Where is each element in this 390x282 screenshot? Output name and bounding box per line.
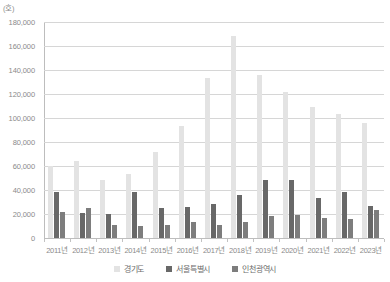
- legend-item[interactable]: 서울특별시: [166, 263, 210, 274]
- bar: [289, 180, 294, 238]
- x-axis-tick-mark: [332, 239, 333, 242]
- y-axis-tick-label: 80,000: [0, 138, 35, 147]
- x-axis-tick-label: 2022년: [334, 244, 356, 255]
- bar-group: [279, 22, 305, 238]
- bar: [48, 166, 53, 238]
- bar: [231, 36, 236, 238]
- bar: [243, 222, 248, 238]
- chart-legend: 경기도서울특별시인천광역시: [0, 263, 390, 274]
- bar-group: [358, 22, 384, 238]
- x-axis-tick-label: 2020년: [281, 244, 303, 255]
- x-axis-tick-labels: 2011년2012년2013년2014년2015년2016년2017년2018년…: [44, 244, 384, 258]
- legend-item[interactable]: 경기도: [114, 263, 144, 274]
- bar: [205, 78, 210, 238]
- bar-group: [253, 22, 279, 238]
- bar: [60, 212, 65, 238]
- legend-item[interactable]: 인천광역시: [232, 263, 276, 274]
- bar: [295, 215, 300, 238]
- bar-group: [96, 22, 122, 238]
- y-axis-tick-label: 40,000: [0, 186, 35, 195]
- x-axis-tick-label: 2017년: [203, 244, 225, 255]
- bar: [362, 123, 367, 238]
- bar: [257, 75, 262, 238]
- x-axis-tick-label: 2014년: [124, 244, 146, 255]
- y-axis-tick-label: 20,000: [0, 210, 35, 219]
- bar-group: [227, 22, 253, 238]
- x-axis-tick-label: 2013년: [98, 244, 120, 255]
- bar: [368, 206, 373, 238]
- x-axis-tick-mark: [44, 239, 45, 242]
- y-axis-tick-label: 180,000: [0, 18, 35, 27]
- bars-layer: [44, 22, 384, 238]
- bar: [159, 208, 164, 238]
- legend-label: 서울특별시: [176, 263, 210, 274]
- plot-area: 180,000160,000140,000120,000100,00080,00…: [44, 22, 384, 238]
- x-axis-tick-label: 2011년: [46, 244, 68, 255]
- x-axis-tick-label: 2012년: [72, 244, 94, 255]
- bar-group: [44, 22, 70, 238]
- y-axis-unit-label: (호): [3, 2, 14, 13]
- bar: [237, 195, 242, 238]
- x-axis-tick-mark: [253, 239, 254, 242]
- y-axis-tick-label: 100,000: [0, 114, 35, 123]
- legend-swatch-icon: [114, 266, 120, 272]
- legend-swatch-icon: [166, 266, 172, 272]
- legend-label: 인천광역시: [242, 263, 276, 274]
- bar-group: [149, 22, 175, 238]
- bar-group: [332, 22, 358, 238]
- x-axis-tick-mark: [70, 239, 71, 242]
- x-axis-tick-marks: [44, 239, 384, 243]
- bar: [132, 192, 137, 238]
- legend-swatch-icon: [232, 266, 238, 272]
- x-axis-tick-label: 2018년: [229, 244, 251, 255]
- y-axis-tick-label: 0: [0, 234, 35, 243]
- x-axis-tick-mark: [358, 239, 359, 242]
- x-axis-tick-mark: [149, 239, 150, 242]
- bar: [100, 180, 105, 238]
- bar: [348, 219, 353, 238]
- y-axis-tick-label: 60,000: [0, 162, 35, 171]
- bar: [283, 92, 288, 238]
- x-axis-tick-mark: [279, 239, 280, 242]
- bar: [138, 226, 143, 238]
- bar: [316, 198, 321, 238]
- x-axis-tick-label: 2021년: [308, 244, 330, 255]
- bar: [310, 107, 315, 238]
- bar-group: [122, 22, 148, 238]
- bar: [269, 216, 274, 238]
- x-axis-tick-mark: [306, 239, 307, 242]
- x-axis-tick-mark: [96, 239, 97, 242]
- x-axis-tick-label: 2023년: [360, 244, 382, 255]
- bar: [185, 207, 190, 238]
- x-axis-tick-label: 2016년: [177, 244, 199, 255]
- bar: [74, 161, 79, 238]
- bar: [165, 225, 170, 238]
- x-axis-tick-mark: [201, 239, 202, 242]
- bar: [374, 210, 379, 238]
- bar-group: [306, 22, 332, 238]
- bar-group: [175, 22, 201, 238]
- x-axis-tick-mark: [122, 239, 123, 242]
- bar: [179, 126, 184, 238]
- x-axis-tick-label: 2015년: [151, 244, 173, 255]
- x-axis-tick-mark: [384, 239, 385, 242]
- bar: [106, 214, 111, 238]
- bar: [322, 218, 327, 238]
- bar: [263, 180, 268, 238]
- bar: [54, 192, 59, 238]
- bar: [86, 208, 91, 238]
- bar-group: [201, 22, 227, 238]
- bar: [217, 225, 222, 238]
- bar: [342, 192, 347, 238]
- y-axis-tick-label: 120,000: [0, 90, 35, 99]
- bar: [191, 222, 196, 238]
- bar-chart: (호) 180,000160,000140,000120,000100,0008…: [0, 0, 390, 282]
- bar: [336, 114, 341, 238]
- y-axis-tick-label: 160,000: [0, 42, 35, 51]
- bar: [126, 174, 131, 238]
- x-axis-tick-mark: [175, 239, 176, 242]
- x-axis-tick-label: 2019년: [255, 244, 277, 255]
- bar: [211, 204, 216, 238]
- bar: [153, 152, 158, 238]
- legend-label: 경기도: [124, 263, 144, 274]
